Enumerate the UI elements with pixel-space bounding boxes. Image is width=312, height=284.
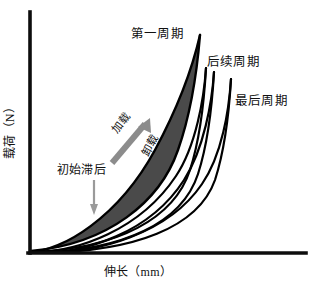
initial-hysteresis-arrow-icon — [90, 180, 98, 215]
annotation-last-cycle: 最后周期 — [235, 95, 288, 108]
annotation-initial-hysteresis: 初始滞后 — [57, 164, 106, 176]
y-axis-label: 载荷（N） — [4, 94, 16, 166]
initial-hysteresis-fill — [30, 35, 200, 252]
x-axis-label: 伸长（mm） — [104, 266, 172, 278]
hysteresis-chart-figure: 第一周期 后续周期 最后周期 初始滞后 加载 卸载 载荷（N） 伸长（mm） — [0, 0, 312, 284]
annotation-subsequent-cycle: 后续周期 — [207, 56, 260, 69]
annotation-first-cycle: 第一周期 — [131, 28, 184, 41]
